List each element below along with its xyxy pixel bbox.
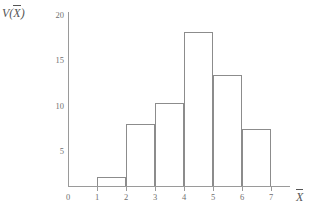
histogram-bars <box>0 0 321 219</box>
histogram-bar-1-2 <box>97 177 126 186</box>
histogram-bar-2-3 <box>126 124 155 186</box>
histogram-bar-4-5 <box>184 32 213 186</box>
histogram-chart: V(X) X 20 15 10 5 0 1 2 3 4 5 6 7 <box>0 0 321 219</box>
histogram-bar-5-6 <box>213 75 242 186</box>
histogram-bar-3-4 <box>155 103 184 186</box>
histogram-bar-6-7 <box>242 129 271 186</box>
